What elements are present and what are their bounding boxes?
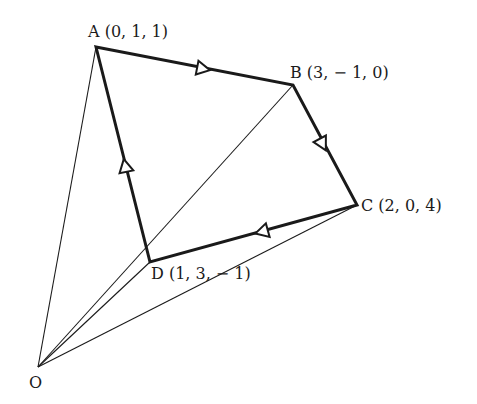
ray-OC [38, 205, 357, 367]
arrow-icon-CD [253, 223, 269, 240]
point-label-D: D (1, 3, − 1) [151, 266, 251, 282]
point-label-B: B (3, − 1, 0) [290, 65, 389, 81]
arrow-icon-DA [117, 158, 133, 174]
ray-OD [38, 262, 150, 367]
point-label-O: O [29, 375, 42, 391]
arrow-icon-AB [196, 61, 211, 77]
point-label-A: A (0, 1, 1) [88, 24, 168, 40]
ray-OB [38, 85, 293, 367]
origin-rays [38, 47, 357, 367]
point-label-C: C (2, 0, 4) [361, 198, 442, 214]
ray-OA [38, 47, 96, 367]
